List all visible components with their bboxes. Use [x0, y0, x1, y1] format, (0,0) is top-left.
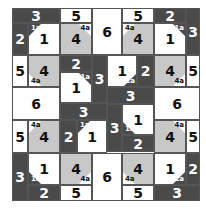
region-cell[interactable]: 3 — [107, 104, 122, 152]
region-number: 2 — [39, 185, 49, 201]
region-number: 5 — [188, 129, 198, 145]
region-cell[interactable]: 3 — [186, 8, 200, 55]
region-number: 5 — [71, 185, 81, 201]
region-cell[interactable]: 5 — [186, 55, 200, 87]
region-cell[interactable]: 5 — [12, 55, 28, 87]
region-number: 1 — [39, 31, 49, 47]
region-number: 4 — [71, 31, 81, 47]
region-cell[interactable]: 2 — [28, 185, 60, 201]
corner-tag: 4a — [80, 25, 90, 32]
region-number: 3 — [79, 104, 89, 120]
corner-tag: 4a — [174, 78, 184, 85]
corner-tag: 4a — [31, 78, 41, 85]
region-number: 2 — [71, 56, 81, 72]
region-cell[interactable]: 3 — [92, 55, 107, 103]
region-number: 2 — [188, 161, 198, 177]
region-number: 6 — [102, 169, 112, 185]
region-cell[interactable]: 3 — [107, 87, 154, 104]
region-cell[interactable]: 44a — [60, 153, 92, 185]
corner-tag: 1a — [31, 176, 41, 183]
region-cell[interactable]: 44a — [154, 120, 186, 153]
region-cell[interactable]: 2 — [60, 120, 77, 153]
region-cell[interactable]: 5 — [12, 120, 28, 153]
region-cell[interactable]: 11a — [154, 153, 186, 185]
corner-tag: 4a — [125, 176, 135, 183]
region-number: 1 — [165, 31, 175, 47]
region-cell[interactable]: 5 — [186, 120, 200, 153]
region-number: 3 — [110, 120, 120, 136]
region-cell[interactable]: 6 — [12, 87, 60, 120]
region-number: 4 — [39, 129, 49, 145]
region-number: 6 — [102, 24, 112, 40]
region-cell[interactable]: 44a — [122, 153, 154, 185]
corner-tag: 1a — [125, 78, 135, 85]
corner-tag: 1a — [80, 122, 90, 129]
region-cell[interactable]: 44a — [28, 120, 60, 153]
region-number: 2 — [133, 136, 143, 152]
region-cell[interactable]: 11a — [77, 120, 107, 153]
region-number: 3 — [172, 185, 182, 201]
region-number: 3 — [95, 71, 105, 87]
region-number: 1 — [87, 129, 97, 145]
region-number: 5 — [15, 63, 25, 79]
region-cell[interactable]: 11a — [107, 55, 137, 87]
region-cell[interactable]: 11a — [28, 23, 60, 55]
region-cell[interactable]: 6 — [92, 8, 122, 55]
corner-tag: 1a — [31, 25, 41, 32]
region-number: 2 — [15, 31, 25, 47]
corner-tag: 1a — [80, 74, 90, 81]
region-cell[interactable]: 2 — [122, 135, 154, 152]
region-cell[interactable]: 3 — [12, 153, 28, 201]
corner-tag: 4a — [125, 25, 135, 32]
region-cell[interactable]: 11a — [28, 153, 60, 185]
region-cell[interactable]: 11a — [122, 104, 154, 135]
region-number: 5 — [188, 63, 198, 79]
corner-tag: 1a — [125, 126, 135, 133]
region-number: 5 — [15, 129, 25, 145]
region-number: 6 — [172, 96, 182, 112]
region-cell[interactable]: 44a — [122, 23, 154, 55]
region-cell[interactable]: 2 — [60, 55, 92, 72]
region-cell[interactable]: 6 — [92, 153, 122, 201]
region-cell[interactable]: 2 — [186, 153, 200, 185]
corner-tag: 1a — [174, 176, 184, 183]
region-cell[interactable]: 2 — [137, 55, 154, 87]
region-number: 5 — [71, 8, 81, 23]
region-number: 3 — [15, 169, 25, 185]
region-number: 6 — [31, 96, 41, 112]
region-cell[interactable]: 2 — [154, 8, 186, 23]
region-cell[interactable]: 3 — [12, 8, 60, 23]
puzzle-board: 356523211a44a44a11a544a2311a11a244a56363… — [0, 0, 206, 209]
region-cell[interactable]: 3 — [60, 103, 107, 120]
region-number: 3 — [31, 8, 41, 23]
region-number: 2 — [165, 8, 175, 23]
region-number: 3 — [126, 88, 136, 104]
region-cell[interactable]: 5 — [60, 8, 92, 23]
region-number: 2 — [64, 129, 74, 145]
corner-tag: 1a — [174, 25, 184, 32]
region-cell[interactable]: 5 — [60, 185, 92, 201]
region-cell[interactable]: 3 — [154, 185, 200, 201]
region-number: 4 — [133, 31, 143, 47]
region-cell[interactable]: 44a — [28, 55, 60, 87]
region-cell[interactable]: 11a — [60, 72, 92, 103]
region-number: 5 — [133, 8, 143, 23]
corner-tag: 4a — [31, 122, 41, 129]
region-cell[interactable]: 6 — [154, 87, 200, 120]
region-cell[interactable]: 2 — [12, 23, 28, 55]
corner-tag: 4a — [80, 176, 90, 183]
region-number: 3 — [188, 24, 198, 40]
region-number: 4 — [165, 129, 175, 145]
region-cell[interactable]: 5 — [122, 8, 154, 23]
region-number: 5 — [133, 185, 143, 201]
region-cell[interactable]: 11a — [154, 23, 186, 55]
region-cell[interactable]: 5 — [122, 185, 154, 201]
region-number: 1 — [71, 80, 81, 96]
region-cell[interactable]: 44a — [60, 23, 92, 55]
region-number: 2 — [141, 63, 151, 79]
corner-tag: 4a — [174, 122, 184, 129]
region-cell[interactable]: 44a — [154, 55, 186, 87]
